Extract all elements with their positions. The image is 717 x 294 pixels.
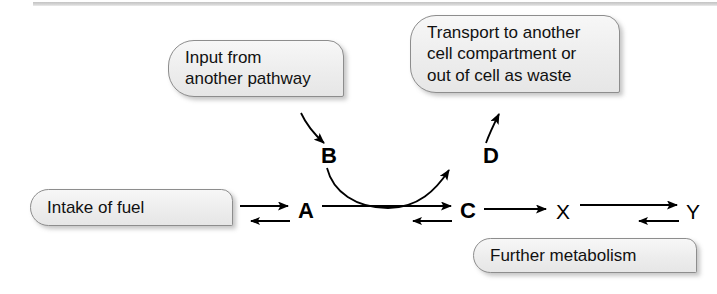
arrow-input-to-b xyxy=(301,113,324,143)
node-label-y: Y xyxy=(683,201,703,222)
node-label-b: B xyxy=(318,145,340,167)
arrow-d-to-transport xyxy=(486,114,499,143)
diagram-canvas: Input from another pathway Transport to … xyxy=(0,0,717,294)
arrow-b-to-d-coupled xyxy=(327,168,449,208)
node-label-c: C xyxy=(457,200,479,222)
node-label-d: D xyxy=(480,145,502,167)
callout-intake-of-fuel: Intake of fuel xyxy=(30,189,233,226)
callout-transport-to-another-cell-compartment: Transport to another cell compartment or… xyxy=(410,15,620,93)
node-label-a: A xyxy=(295,200,317,222)
arrow-x-to-y xyxy=(580,205,679,221)
callout-further-metabolism: Further metabolism xyxy=(473,238,697,273)
arrow-intake-to-a xyxy=(240,206,290,221)
callout-input-from-another-pathway: Input from another pathway xyxy=(168,40,344,97)
node-label-x: X xyxy=(553,201,573,222)
